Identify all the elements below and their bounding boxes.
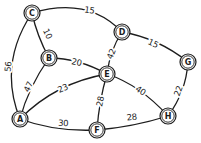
node-label-C: C	[29, 9, 35, 18]
edge-weight-C-D: 15	[84, 4, 96, 15]
edge-weight-B-E: 20	[71, 56, 83, 68]
node-label-H: H	[165, 112, 172, 121]
node-H: H	[160, 108, 176, 124]
edge-weight-A-E: 23	[56, 82, 69, 95]
node-label-D: D	[119, 28, 126, 37]
node-label-F: F	[94, 126, 99, 135]
edge-weight-F-H: 28	[126, 112, 137, 123]
edge-weight-G-H: 22	[172, 84, 185, 97]
node-D: D	[114, 24, 130, 40]
node-label-G: G	[185, 58, 192, 67]
node-F: F	[89, 122, 105, 138]
node-B: B	[41, 50, 57, 66]
edge-E-H	[107, 74, 168, 116]
edge-weight-D-E: 42	[105, 47, 118, 60]
node-label-A: A	[17, 115, 24, 124]
node-label-B: B	[46, 54, 52, 63]
graph-diagram: 47562330102015421528402822ABCDEFGH	[0, 0, 201, 143]
node-label-E: E	[104, 70, 109, 79]
edge-A-E	[20, 74, 107, 119]
node-C: C	[24, 5, 40, 21]
edge-weight-A-B: 47	[22, 80, 35, 93]
edge-weight-A-C: 56	[3, 61, 14, 72]
edge-weight-E-F: 28	[94, 95, 106, 107]
node-G: G	[180, 54, 196, 70]
node-E: E	[99, 66, 115, 82]
graph-svg: 47562330102015421528402822ABCDEFGH	[0, 0, 201, 143]
edge-A-C	[11, 13, 32, 119]
edge-weight-B-C: 10	[41, 27, 54, 40]
edge-weight-A-F: 30	[58, 118, 69, 129]
node-A: A	[12, 111, 28, 127]
